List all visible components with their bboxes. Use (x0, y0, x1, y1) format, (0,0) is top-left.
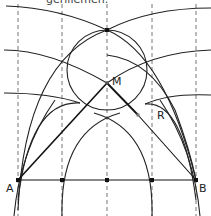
point-3 (105, 178, 109, 182)
arc-mid-1 (4, 50, 107, 83)
arc-outer-left (14, 100, 55, 216)
geometry-diagram (0, 0, 211, 216)
arc-low-2 (145, 95, 211, 104)
point-A (16, 178, 20, 182)
label-B: B (199, 183, 207, 194)
point-4 (150, 178, 154, 182)
arcs (4, 6, 211, 216)
line-A-M (18, 83, 107, 180)
point-R (137, 114, 140, 117)
arc-left-small (18, 103, 80, 200)
label-M: M (112, 76, 122, 87)
arc-outer-right (160, 100, 200, 216)
arc-inner-right (94, 113, 152, 216)
point-M (106, 82, 109, 85)
arc-top-1 (6, 6, 107, 30)
label-A: A (6, 183, 14, 194)
arc-mid-2 (107, 50, 211, 83)
point-B (194, 178, 198, 182)
arc-inner-left (62, 113, 120, 216)
arc-top-2 (107, 8, 211, 30)
label-R: R (157, 110, 165, 121)
point-top (105, 28, 109, 32)
point-2 (60, 178, 64, 182)
